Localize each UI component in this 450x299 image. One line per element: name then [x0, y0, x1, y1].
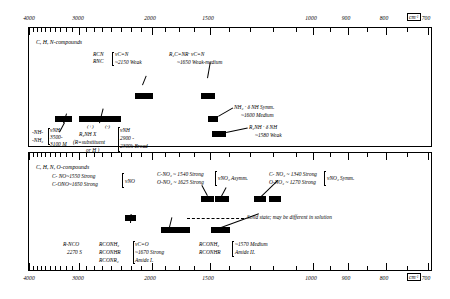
brace-nitrile	[112, 52, 114, 66]
label-nitrile-species-1: RCN	[93, 51, 103, 57]
axis-tick-label-2000: 2000	[144, 15, 156, 21]
axis-tick-label-4000: 4000	[23, 15, 35, 21]
label-nh-value-2: 3100 M	[50, 141, 67, 148]
label-ammonium-species: R₃NH X	[79, 131, 96, 138]
label-nh-assignment: νNH	[50, 127, 60, 134]
leader-nitro-asym	[221, 187, 226, 196]
label-r2nh-bend-species: R₂NH · δ NH	[249, 124, 277, 131]
axis-tick-label-800: 800	[380, 15, 389, 21]
brace-nitroso	[122, 173, 124, 188]
leader-r2nh-bend	[226, 127, 248, 132]
panel-2-tick-row-top	[29, 153, 431, 160]
label-r2nh-bend-value: ~1580 Weak	[255, 132, 282, 139]
label-nitroso-assignment: νNO	[125, 178, 135, 185]
panel-2-heading: C, H, N, O-compounds	[36, 164, 89, 170]
label-ammonium-value-1: 2900 -	[120, 135, 134, 142]
label-solid-state-note: Solid state; may be different in solutio…	[247, 214, 332, 221]
label-amide-II-species-1: RCONH₂	[199, 241, 219, 248]
label-nitro-asym-assignment: νNO₂ Asymm.	[218, 175, 248, 182]
band-nitro-sym-2	[269, 196, 281, 202]
leader-amide-I	[169, 217, 172, 227]
panel-2-tick-row-bottom	[29, 263, 431, 270]
band-imine-cn-stretch	[201, 93, 215, 99]
band-nitro-asym	[215, 196, 229, 202]
label-ammonium-assignment: νNH	[120, 127, 130, 134]
band-nitro-sym-1	[254, 196, 266, 202]
axis-tick-label-3000: 3000	[72, 15, 84, 21]
ir-correlation-chart: 4000 3000 2000 1500 1000 900 800 700 cm-…	[0, 0, 450, 299]
solid-state-note-leader	[187, 218, 244, 219]
brace-nitro-sym	[324, 171, 326, 186]
panel-1-heading: C, H, N-compounds	[36, 39, 82, 45]
label-nh-species-1: -NH-	[32, 129, 43, 136]
axis-tick-label-700: 700	[422, 15, 431, 21]
label-amide-I-species-1: RCONH₂	[99, 241, 119, 248]
label-nh2-bend-species: NH₂ · δ NH Symm.	[234, 104, 274, 111]
label-group-nitrile: RCN RNC	[93, 51, 103, 65]
label-amide-II-name: Amide II.	[235, 249, 255, 256]
label-ammonium-value-2: 2300k Broad	[120, 143, 148, 150]
axis-tick-label-1000: 1000	[305, 15, 317, 21]
panel-1-tick-row	[29, 28, 431, 35]
band-r2nh-delta	[212, 131, 226, 137]
brace-amide-II	[232, 241, 234, 257]
top-axis-tick-labels: 4000 3000 2000 1500 1000 900 800 700	[28, 15, 432, 25]
label-isocyanate-value: 2270 S	[67, 249, 82, 256]
leader-nh2-bend	[218, 108, 233, 117]
label-ammonium-charge-minus: (-)	[105, 124, 110, 130]
axis-unit-label-bottom: cm-1	[407, 273, 421, 281]
label-amide-II-species-2: RCONHR	[199, 249, 221, 256]
band-amide-I	[161, 227, 190, 233]
label-imine-species: R₂C=NR·	[169, 51, 190, 57]
axis-tick-label-bottom-3000: 3000	[72, 275, 84, 281]
band-nitroso-nitrite	[201, 196, 214, 202]
label-imine-value: ~1650 Weak-medium	[177, 59, 222, 66]
label-nh-value-1: 3500-	[50, 134, 63, 141]
label-amide-II-value: ~1570 Medium	[235, 241, 268, 248]
label-nitroso-species-1: C- NO~1550 Strong	[52, 173, 95, 180]
band-nh2-delta-sym	[208, 116, 218, 122]
label-amide-I-value: ~1670 Strong	[135, 249, 164, 256]
leader-nitrile	[142, 76, 146, 86]
label-nitrile-assignment: νC≡N	[115, 51, 128, 58]
axis-tick-label-1500: 1500	[202, 15, 214, 21]
axis-unit-label-top: cm-1	[407, 13, 421, 21]
bottom-axis-tick-labels: 4000 3000 2000 1500 1000 900 800 700	[28, 275, 432, 285]
axis-tick-label-bottom-4000: 4000	[23, 275, 35, 281]
band-nitrile-isonitrile	[135, 93, 153, 99]
label-nitro-sym-species-1: C- NO₂ ~ 1340 Strong	[269, 171, 317, 178]
label-nitro-sym-assignment: νNO₂ Symm.	[327, 175, 354, 182]
label-nh2-bend-value: ~1600 Medium	[241, 112, 274, 119]
label-nitro-asym-species-2: O-NO₂ ~ 1625 Strong	[157, 179, 204, 186]
label-nitrile-value: ~2150 Weak	[115, 59, 142, 66]
label-amide-I-species-2: RCONHR	[99, 249, 121, 256]
axis-tick-label-bottom-1000: 1000	[305, 275, 317, 281]
label-amide-I-assignment: νC=O	[135, 241, 149, 248]
label-nitrile-species-2: RNC	[93, 58, 103, 64]
axis-tick-label-bottom-1500: 1500	[202, 275, 214, 281]
leader-nitroso	[201, 185, 207, 196]
axis-tick-label-bottom-900: 900	[342, 275, 351, 281]
label-ammonium-note-1: (R=substituent	[73, 139, 105, 146]
panel-1-chn-compounds: C, H, N-compounds RCN RNC νC≡N ~2150 Wea…	[28, 27, 432, 147]
panel-2-chno-compounds: C, H, N, O-compounds C- NO~1550 Strong C…	[28, 152, 432, 271]
label-imine-assignment: νC=N	[191, 51, 204, 57]
axis-tick-label-900: 900	[342, 15, 351, 21]
label-nitro-asym-species-1: C-NO₂ ~ 1540 Strong	[157, 171, 204, 178]
label-ammonium-charge-plus: (+)	[87, 124, 94, 130]
axis-tick-label-bottom-800: 800	[380, 275, 389, 281]
axis-tick-label-bottom-700: 700	[422, 275, 431, 281]
label-nh-species-2: -NH₂	[32, 137, 43, 144]
label-nitroso-species-2: C-ONO~1650 Strong	[52, 181, 98, 188]
label-isocyanate-species: R-NCO	[63, 241, 79, 248]
label-imine-line-1: R₂C=NR· νC=N	[169, 51, 204, 58]
axis-tick-label-bottom-2000: 2000	[144, 275, 156, 281]
brace-nitro-asym	[215, 171, 217, 186]
